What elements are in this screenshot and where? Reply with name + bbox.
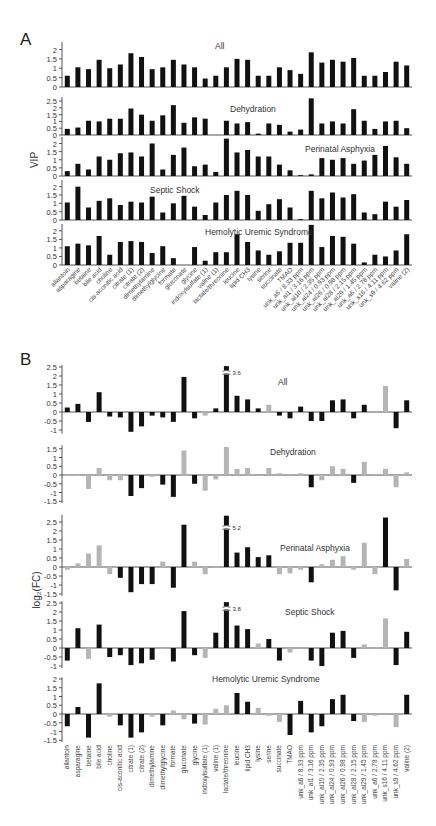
svg-text:1.5: 1.5 (47, 445, 57, 454)
svg-text:-1: -1 (50, 489, 57, 498)
svg-text:unk_a6 / 2.78 ppm: unk_a6 / 2.78 ppm (371, 745, 379, 799)
svg-text:choline: choline (106, 745, 113, 766)
svg-text:2: 2 (53, 675, 57, 684)
svg-text:2: 2 (53, 372, 57, 381)
svg-text:unk_al24 / 0.93 ppm: unk_al24 / 0.93 ppm (328, 745, 336, 804)
svg-text:lysine: lysine (254, 745, 262, 762)
svg-text:3.6: 3.6 (232, 370, 241, 376)
svg-text:unk_al10 / 2.35 ppm: unk_al10 / 2.35 ppm (318, 745, 326, 804)
svg-text:valine (1): valine (1) (212, 745, 220, 772)
svg-text:lactate/threonine: lactate/threonine (222, 745, 229, 793)
svg-text:-1.5: -1.5 (44, 736, 57, 745)
svg-text:1: 1 (53, 390, 57, 399)
svg-text:1.5: 1.5 (47, 536, 57, 545)
svg-text:1: 1 (53, 454, 57, 463)
svg-text:unk_al28 / 2.15 ppm: unk_al28 / 2.15 ppm (350, 745, 358, 804)
svg-text:dimethylglycine: dimethylglycine (159, 745, 167, 790)
svg-text:Septic Shock: Septic Shock (285, 607, 335, 617)
svg-text:0: 0 (53, 471, 57, 480)
svg-text:0: 0 (53, 710, 57, 719)
svg-text:2.5: 2.5 (47, 599, 57, 608)
svg-text:dimethylamine: dimethylamine (148, 745, 156, 787)
svg-text:0: 0 (53, 644, 57, 653)
svg-text:-0.5: -0.5 (44, 719, 57, 728)
svg-text:Dehydration: Dehydration (270, 447, 316, 457)
svg-text:-0.5: -0.5 (44, 572, 57, 581)
svg-text:gluconate: gluconate (180, 745, 188, 774)
svg-text:0.5: 0.5 (47, 554, 57, 563)
svg-text:formate: formate (169, 745, 176, 767)
svg-text:2.5: 2.5 (47, 363, 57, 372)
svg-text:-1: -1 (50, 728, 57, 737)
svg-text:cis-aconitic acid: cis-aconitic acid (116, 745, 123, 791)
svg-text:1.5: 1.5 (47, 381, 57, 390)
svg-text:3.8: 3.8 (232, 606, 241, 612)
svg-text:-1.5: -1.5 (44, 497, 57, 506)
fc-subplot-2: -1.5-1-0.500.511.522.55.2Perinatal Asphy… (44, 515, 412, 599)
svg-text:citrate (2): citrate (2) (138, 745, 146, 772)
svg-text:glycine: glycine (191, 745, 199, 766)
svg-text:log₂(FC): log₂(FC) (31, 571, 42, 608)
svg-text:Perinatal Asphyxia: Perinatal Asphyxia (280, 543, 350, 553)
svg-text:unk_s9 / 4.62 ppm: unk_s9 / 4.62 ppm (392, 745, 400, 798)
svg-text:1.5: 1.5 (47, 684, 57, 693)
svg-text:0: 0 (53, 563, 57, 572)
fc-subplot-0: -1-0.500.511.522.53.6All (44, 363, 412, 435)
svg-text:-0.5: -0.5 (44, 417, 57, 426)
svg-text:bile acid: bile acid (95, 745, 102, 769)
svg-text:-0.5: -0.5 (44, 480, 57, 489)
svg-text:2.5: 2.5 (47, 518, 57, 527)
svg-text:1.5: 1.5 (47, 617, 57, 626)
svg-text:1: 1 (53, 693, 57, 702)
svg-text:indoxylsulfate (1): indoxylsulfate (1) (201, 745, 209, 794)
svg-text:1: 1 (53, 626, 57, 635)
svg-text:0: 0 (53, 408, 57, 417)
svg-text:-1: -1 (50, 581, 57, 590)
svg-text:asparagine: asparagine (74, 745, 82, 778)
svg-text:leucine: leucine (233, 745, 240, 766)
svg-text:betaine: betaine (85, 745, 92, 767)
svg-text:0.5: 0.5 (47, 701, 57, 710)
svg-text:All: All (278, 377, 288, 387)
svg-text:-0.5: -0.5 (44, 653, 57, 662)
svg-text:5.2: 5.2 (232, 525, 241, 531)
svg-text:lipid CH3: lipid CH3 (244, 745, 252, 772)
svg-text:succinate: succinate (275, 745, 282, 773)
svg-text:unk_al26 / 0.98 ppm: unk_al26 / 0.98 ppm (339, 745, 347, 804)
svg-text:-1: -1 (50, 426, 57, 435)
svg-text:valine (2): valine (2) (403, 745, 411, 772)
svg-text:serine: serine (265, 745, 272, 763)
svg-text:citrate (1): citrate (1) (127, 745, 135, 772)
svg-text:2: 2 (53, 527, 57, 536)
panel-b-fold-change-chart: -1-0.500.511.522.53.6All-1.5-1-0.500.511… (0, 0, 436, 826)
svg-text:allantoin: allantoin (63, 745, 70, 770)
svg-text:1: 1 (53, 545, 57, 554)
svg-text:0.5: 0.5 (47, 635, 57, 644)
svg-text:2: 2 (53, 608, 57, 617)
fc-subplot-4: -1.5-1-0.500.511.52Hemolytic Uremic Synd… (44, 674, 412, 745)
fc-subplot-3: -1-0.500.511.522.53.8Septic Shock (44, 599, 412, 671)
svg-text:TMAO: TMAO (286, 745, 293, 764)
svg-text:unk_al1 / 3.16 ppm: unk_al1 / 3.16 ppm (307, 745, 315, 800)
svg-text:0.5: 0.5 (47, 462, 57, 471)
svg-text:Hemolytic Uremic Syndrome: Hemolytic Uremic Syndrome (212, 674, 320, 684)
fc-subplot-1: -1.5-1-0.500.511.5Dehydration (44, 445, 412, 507)
svg-text:-1: -1 (50, 662, 57, 671)
svg-text:0.5: 0.5 (47, 399, 57, 408)
svg-text:-1.5: -1.5 (44, 590, 57, 599)
svg-text:unk_s16 / 4.11 ppm: unk_s16 / 4.11 ppm (381, 745, 389, 802)
svg-text:unk_al29 / 1.45 ppm: unk_al29 / 1.45 ppm (360, 745, 368, 804)
svg-text:unk_a6 / 8.33 ppm: unk_a6 / 8.33 ppm (297, 745, 305, 799)
